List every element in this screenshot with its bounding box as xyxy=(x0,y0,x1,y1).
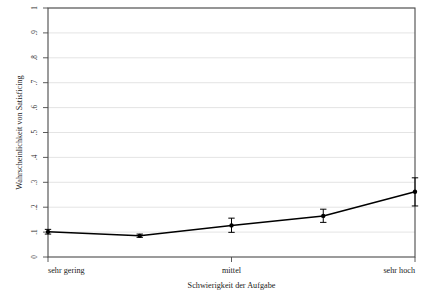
y-tick-label: 1 xyxy=(31,6,39,10)
data-point-marker xyxy=(138,234,142,238)
y-tick-label: .4 xyxy=(31,154,39,160)
y-tick-label: .3 xyxy=(31,179,39,185)
x-axis-tick-labels: sehr gering mittel sehr hoch xyxy=(48,266,415,275)
x-tick-label-mittel: mittel xyxy=(222,266,242,275)
y-tick-label: .2 xyxy=(31,204,39,210)
y-tick-label: 0 xyxy=(31,255,39,259)
y-tick-label: .5 xyxy=(31,129,39,135)
y-tick-label: .9 xyxy=(31,30,39,36)
y-tick-label: .7 xyxy=(31,80,39,86)
x-axis-title: Schwierigkeit der Aufgabe xyxy=(188,281,276,290)
y-tick-label: .8 xyxy=(31,55,39,61)
data-point-marker xyxy=(321,214,325,218)
y-axis-title: Wahrscheinlichkeit von Satisficing xyxy=(15,75,24,189)
chart-figure: 0 .1 .2 .3 .4 .5 .6 .7 .8 .9 1 Wahrschei… xyxy=(0,0,431,296)
data-point-marker xyxy=(46,230,50,234)
y-tick-label: .6 xyxy=(31,104,39,110)
data-point-marker xyxy=(413,190,417,194)
line-chart-svg: 0 .1 .2 .3 .4 .5 .6 .7 .8 .9 1 Wahrschei… xyxy=(0,0,431,296)
data-point-marker xyxy=(229,223,233,227)
x-tick-label-sehr-hoch: sehr hoch xyxy=(383,266,415,275)
y-axis-tick-labels: 0 .1 .2 .3 .4 .5 .6 .7 .8 .9 1 xyxy=(31,6,39,259)
y-tick-label: .1 xyxy=(31,229,39,235)
x-tick-label-sehr-gering: sehr gering xyxy=(48,266,85,275)
y-axis-ticks xyxy=(43,8,48,257)
x-axis-ticks xyxy=(48,257,415,262)
